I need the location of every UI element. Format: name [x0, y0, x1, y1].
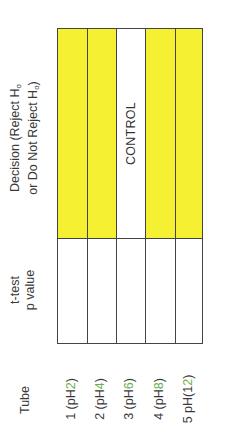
tube-ph: 8	[152, 382, 166, 389]
subscript-o: o	[32, 85, 41, 89]
tube-prefix: 3 (pH	[122, 389, 136, 420]
tube-label-3: 3 (pH6)	[122, 364, 136, 434]
header-decision-line1: Decision (Reject Ho	[8, 48, 26, 228]
tube-label-4: 4 (pH8)	[152, 364, 166, 434]
decision-cell-control: CONTROL	[117, 29, 145, 238]
p-value-cell[interactable]	[58, 238, 87, 343]
header-decision-line2: or Do Not Reject Ho)	[26, 48, 44, 228]
p-value-cell[interactable]	[88, 238, 116, 343]
tube-prefix: 5 pH(1	[181, 386, 195, 424]
tube-prefix: 2 (pH	[93, 389, 107, 420]
p-value-cell[interactable]	[146, 238, 175, 343]
header-tube: Tube	[18, 370, 33, 430]
header-decision: Decision (Reject Ho or Do Not Reject Ho)	[8, 48, 44, 228]
decision-line2-close: )	[26, 81, 40, 85]
tube-label-1: 1 (pH2)	[64, 364, 78, 434]
table-row: CONTROL	[116, 29, 145, 343]
results-table: CONTROL	[57, 28, 203, 344]
table-row	[145, 29, 175, 343]
header-ttest: t-test p value	[8, 250, 38, 330]
tube-ph: 4	[93, 382, 107, 389]
decision-cell[interactable]	[146, 29, 175, 238]
tube-suffix: )	[64, 378, 78, 382]
tube-ph: 2	[64, 382, 78, 389]
rotated-table-canvas: Tube t-test p value Decision (Reject Ho …	[0, 0, 233, 448]
header-ttest-line2: p value	[23, 250, 38, 330]
subscript-o: o	[14, 84, 23, 88]
decision-cell[interactable]	[176, 29, 202, 238]
tube-ph: 2	[181, 379, 195, 386]
tube-label-2: 2 (pH4)	[93, 364, 107, 434]
tube-label-5: 5 pH(12)	[181, 364, 195, 434]
decision-cell[interactable]	[88, 29, 116, 238]
table-row	[87, 29, 116, 343]
tube-prefix: 4 (pH	[152, 389, 166, 420]
p-value-cell[interactable]	[117, 238, 145, 343]
decision-line1-text: Decision (Reject H	[8, 88, 22, 192]
tube-ph: 6	[122, 382, 136, 389]
decision-line2-text: or Do Not Reject H	[26, 90, 40, 195]
table-row	[58, 29, 87, 343]
p-value-cell[interactable]	[176, 238, 202, 343]
tube-suffix: )	[93, 378, 107, 382]
tube-prefix: 1 (pH	[64, 389, 78, 420]
tube-suffix: )	[122, 378, 136, 382]
tube-suffix: )	[152, 378, 166, 382]
decision-cell[interactable]	[58, 29, 87, 238]
tube-suffix: )	[181, 375, 195, 379]
header-ttest-line1: t-test	[8, 250, 23, 330]
header-tube-label: Tube	[18, 386, 32, 414]
table-row	[175, 29, 202, 343]
